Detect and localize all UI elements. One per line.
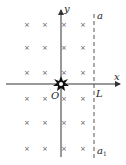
field-cross-mark: × <box>61 119 67 127</box>
intersection-label: L <box>95 88 103 99</box>
boundary-bottom-label: a1 <box>97 145 107 157</box>
field-cross-mark: × <box>80 95 86 103</box>
field-cross-mark: × <box>42 21 48 29</box>
y-axis-label: y <box>63 3 70 14</box>
field-cross-mark: × <box>80 44 86 52</box>
field-cross-mark: × <box>24 119 30 127</box>
magnetic-field-marks: ×××××××××××××××××××××××× <box>24 21 86 153</box>
x-axis-label: x <box>114 71 120 82</box>
field-cross-mark: × <box>61 69 67 77</box>
field-cross-mark: × <box>42 95 48 103</box>
field-cross-mark: × <box>80 69 86 77</box>
field-cross-mark: × <box>61 44 67 52</box>
field-cross-mark: × <box>42 44 48 52</box>
field-cross-mark: × <box>61 95 67 103</box>
field-cross-mark: × <box>42 69 48 77</box>
field-cross-mark: × <box>80 145 86 153</box>
field-cross-mark: × <box>61 145 67 153</box>
boundary-top-label: a <box>97 10 103 21</box>
field-cross-mark: × <box>24 69 30 77</box>
field-cross-mark: × <box>24 44 30 52</box>
field-cross-mark: × <box>80 21 86 29</box>
field-cross-mark: × <box>42 119 48 127</box>
diagram-canvas: ×××××××××××××××××××××××× y x O a L a1 <box>0 0 126 165</box>
field-cross-mark: × <box>24 95 30 103</box>
field-cross-mark: × <box>80 119 86 127</box>
field-cross-mark: × <box>24 145 30 153</box>
field-cross-mark: × <box>61 21 67 29</box>
field-cross-mark: × <box>24 21 30 29</box>
origin-label: O <box>51 90 59 101</box>
field-cross-mark: × <box>42 145 48 153</box>
